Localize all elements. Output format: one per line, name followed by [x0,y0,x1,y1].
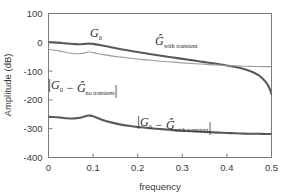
x-tick-label: 0.5 [265,162,278,173]
x-tick-label: 0 [46,162,51,173]
y-tick-label: 0 [37,37,42,48]
figure-container: 1000-100-200-300-400 00.10.20.30.40.5 G0… [0,0,283,196]
x-tick-label: 0.3 [176,162,189,173]
y-axis-title: Amplitude (dB) [2,54,13,117]
y-tick-label: -100 [23,66,42,77]
y-tick-label: 100 [27,8,43,19]
x-tick-label: 0.1 [86,162,99,173]
y-tick-label: -300 [23,123,42,134]
x-axis-title: frequency [139,181,181,192]
y-tick-label: -400 [23,152,42,163]
x-tick-label: 0.2 [131,162,144,173]
y-tick-label: -200 [23,94,42,105]
amplitude-vs-frequency-chart: 1000-100-200-300-400 00.10.20.30.40.5 G0… [0,0,283,196]
x-tick-label: 0.4 [220,162,233,173]
